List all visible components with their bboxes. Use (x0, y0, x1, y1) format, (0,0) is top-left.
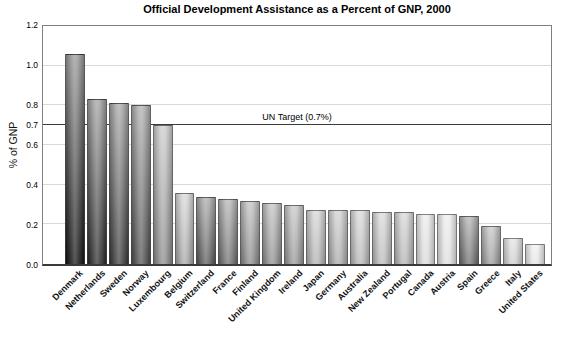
bar-united-kingdom (262, 203, 282, 264)
bar-portugal (394, 212, 414, 264)
bar-ireland (284, 205, 304, 265)
bar-greece (481, 226, 501, 264)
bar-netherlands (87, 99, 107, 264)
y-tick-0.4: 0.4 (26, 180, 38, 190)
y-tick-0.7: 0.7 (26, 120, 38, 130)
bar-japan (306, 210, 326, 264)
y-tick-0.0: 0.0 (26, 260, 38, 270)
bars-container (43, 26, 551, 264)
bar-canada (416, 214, 436, 264)
bar-united-states (525, 244, 545, 264)
y-tick-0.8: 0.8 (26, 100, 38, 110)
y-tick-1.0: 1.0 (26, 60, 38, 70)
bar-norway (131, 105, 151, 264)
plot-area: UN Target (0.7%) (42, 25, 552, 266)
bar-sweden (109, 103, 129, 264)
oda-bar-chart: Official Development Assistance as a Per… (0, 0, 563, 338)
bar-luxembourg (153, 125, 173, 264)
chart-title: Official Development Assistance as a Per… (42, 3, 552, 15)
bar-france (218, 199, 238, 264)
y-axis-title: % of GNP (7, 95, 21, 195)
y-tick-1.2: 1.2 (26, 20, 38, 30)
un-target-label: UN Target (0.7%) (43, 112, 551, 122)
y-tick-0.2: 0.2 (26, 220, 38, 230)
y-tick-0.6: 0.6 (26, 140, 38, 150)
bar-austria (437, 214, 457, 264)
bar-new-zealand (372, 212, 392, 264)
bar-italy (503, 238, 523, 264)
bar-spain (459, 216, 479, 264)
bar-germany (328, 210, 348, 264)
bar-switzerland (196, 197, 216, 264)
bar-finland (240, 201, 260, 264)
bar-australia (350, 210, 370, 264)
bar-belgium (175, 193, 195, 264)
bar-denmark (65, 54, 85, 264)
